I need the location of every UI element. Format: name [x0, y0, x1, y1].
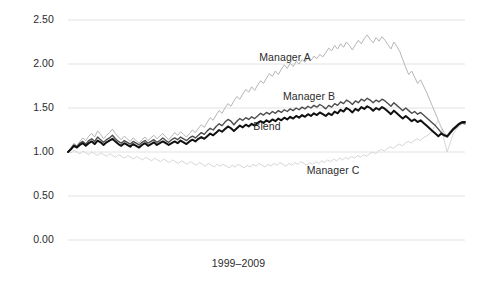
x-axis-label: 1999–2009 [0, 257, 477, 269]
chart-plot-area [0, 0, 477, 285]
series-label: Manager C [307, 164, 360, 176]
y-axis-tick-label: 1.50 [8, 101, 54, 113]
series-label: Manager A [259, 51, 311, 63]
series-label: Blend [253, 120, 280, 132]
y-axis-tick-label: 2.50 [8, 13, 54, 25]
y-axis-tick-label: 0.50 [8, 189, 54, 201]
y-axis-tick-label: 1.00 [8, 145, 54, 157]
y-axis-tick-label: 2.00 [8, 57, 54, 69]
y-axis-tick-label: 0.00 [8, 233, 54, 245]
series-label: Manager B [283, 90, 335, 102]
line-chart: 0.000.501.001.502.002.50 Manager AManage… [0, 0, 477, 285]
